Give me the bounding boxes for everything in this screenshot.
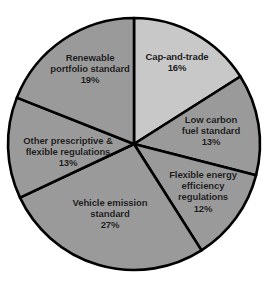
pie-slice-value: 27% [73,219,148,231]
pie-slice-label-6: Renewableportfolio standard19% [50,52,129,86]
pie-slice-value: 13% [23,157,112,169]
pie-slice-label-text: flexible regulations [23,146,112,157]
pie-slice-value: 13% [182,136,240,148]
pie-slice-value: 19% [50,74,129,86]
pie-slice-label-text: efficiency [169,181,237,192]
pie-slice-label-5: Other prescriptive &flexible regulations… [23,135,112,169]
pie-slice-label-1: Cap-and-trade16% [145,51,208,74]
pie-slice-label-text: Other prescriptive & [23,135,112,146]
pie-slice-value: 16% [145,62,208,74]
pie-slice-label-text: Cap-and-trade [145,51,208,62]
pie-slice-label-text: Vehicle emission [73,197,148,208]
pie-slice-label-text: portfolio standard [50,63,129,74]
pie-slice-label-text: Renewable [50,52,129,63]
pie-slice-label-text: Low carbon [182,114,240,125]
pie-slice-label-text: regulations [169,192,237,203]
pie-slice-label-4: Vehicle emissionstandard27% [73,197,148,231]
pie-slice-label-text: Flexible energy [169,169,237,180]
pie-slice-label-3: Flexible energyefficiencyregulations12% [169,169,237,214]
pie-slice-label-2: Low carbonfuel standard13% [182,114,240,148]
pie-slice-label-text: standard [73,208,148,219]
pie-slice-value: 12% [169,203,237,215]
pie-slice-label-text: fuel standard [182,125,240,136]
pie-chart: Cap-and-trade16%Low carbonfuel standard1… [0,0,271,284]
